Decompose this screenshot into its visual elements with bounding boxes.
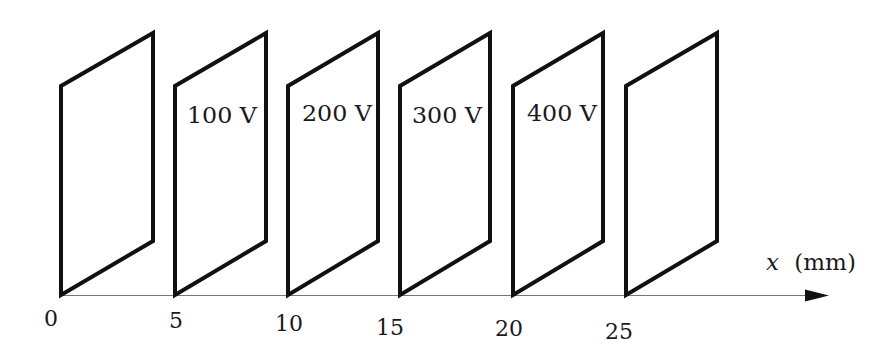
plate-0 xyxy=(61,33,153,295)
x-tick-label-15: 15 xyxy=(376,315,404,340)
plate-20-voltage-label: 400 V xyxy=(527,101,598,126)
x-tick-label-25: 25 xyxy=(605,319,633,344)
x-tick-label-10: 10 xyxy=(275,311,303,336)
plate-15-voltage-label: 300 V xyxy=(412,103,483,128)
x-axis-unit: (mm) xyxy=(794,249,856,275)
plate-5-voltage-label: 100 V xyxy=(187,103,258,128)
plate-20 xyxy=(513,33,603,295)
plate-10-voltage-label: 200 V xyxy=(302,101,373,126)
x-tick-label-20: 20 xyxy=(495,316,523,341)
x-axis-title: x (mm) xyxy=(766,249,856,275)
x-tick-label-0: 0 xyxy=(44,306,58,331)
plate-5 xyxy=(175,33,266,295)
plate-15 xyxy=(400,33,490,295)
plate-10 xyxy=(288,33,378,295)
x-tick-label-5: 5 xyxy=(169,308,183,333)
plate-25 xyxy=(626,33,717,295)
electrode-plates-diagram: 100 V 200 V 300 V 400 V 0 5 10 15 20 25 … xyxy=(0,0,895,359)
x-axis-arrowhead-icon xyxy=(805,290,829,302)
x-axis-variable: x xyxy=(766,249,779,275)
